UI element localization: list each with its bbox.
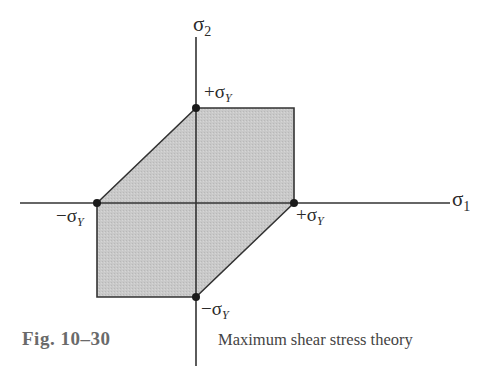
point-left <box>93 199 101 207</box>
label-bottom-minus-sigma-y: −σY <box>201 298 230 322</box>
point-bottom <box>192 293 200 301</box>
sigma1-label: σ1 <box>452 187 470 214</box>
figure-number: Fig. 10–30 <box>22 328 110 350</box>
label-right-plus-sigma-y: +σY <box>296 204 325 228</box>
label-left-minus-sigma-y: −σY <box>56 205 85 229</box>
point-top <box>192 104 200 112</box>
tresca-yield-diagram: σ2 σ1 +σY +σY −σY −σY Fig. 10–30 Maximum… <box>0 0 495 384</box>
label-top-plus-sigma-y: +σY <box>204 81 233 105</box>
sigma2-label: σ2 <box>193 12 211 39</box>
figure-caption: Maximum shear stress theory <box>218 330 413 350</box>
